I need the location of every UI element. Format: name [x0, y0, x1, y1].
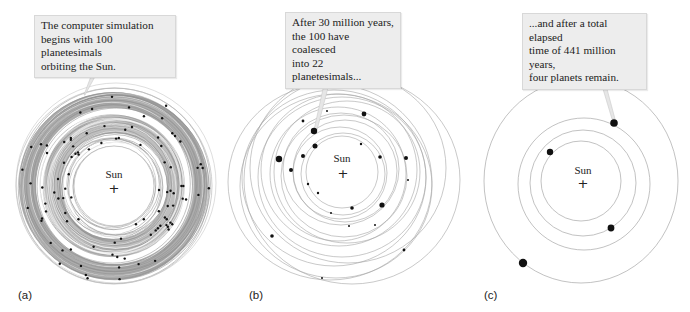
panel-c: ...and after a total elapsed time of 441… [0, 0, 690, 312]
callout-c: ...and after a total elapsed time of 441… [522, 13, 647, 90]
sun-label-c: Sun [574, 164, 591, 176]
sun-marker-icon-c: + [578, 177, 589, 190]
panel-label-c: (c) [484, 289, 497, 301]
